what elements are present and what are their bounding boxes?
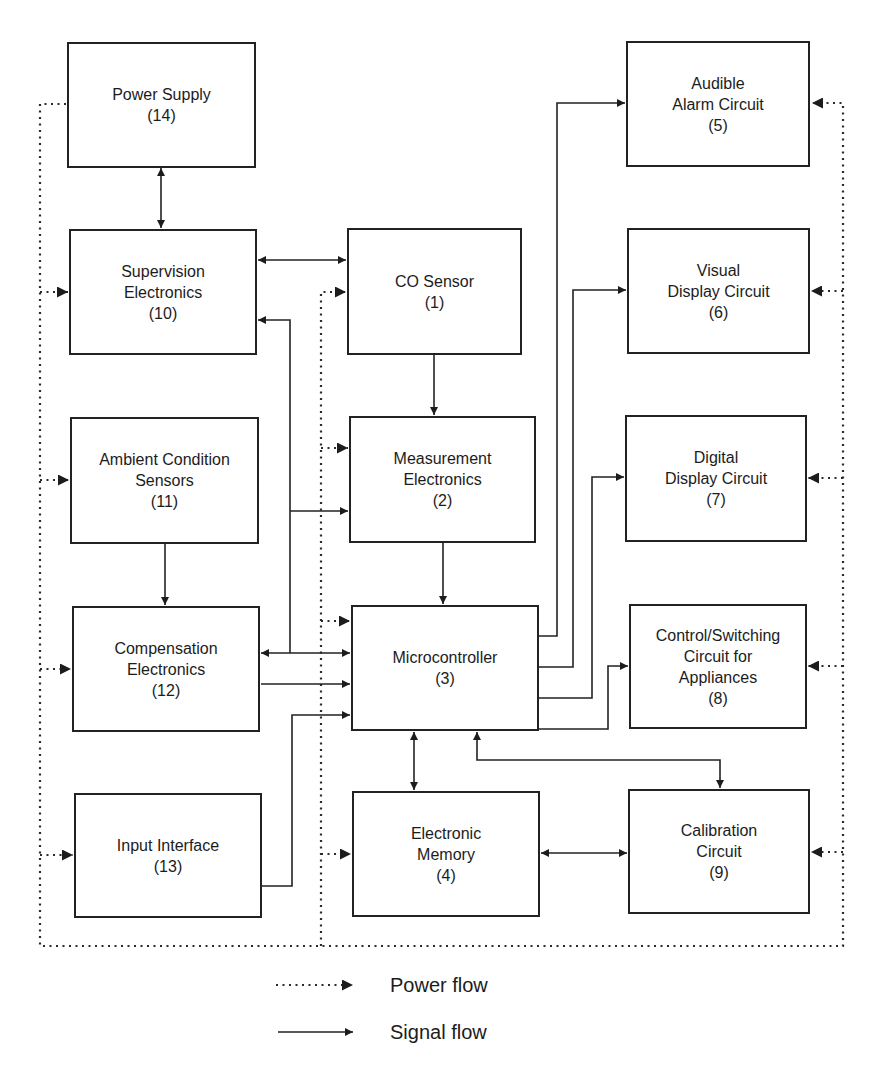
block-label: Calibration	[681, 820, 757, 841]
block-label: Input Interface	[117, 835, 219, 856]
block-supervision-electronics: Supervision Electronics (10)	[69, 229, 257, 355]
signal-micro-visual	[539, 290, 626, 667]
block-visual-display-circuit: Visual Display Circuit (6)	[627, 228, 810, 354]
block-label: Display Circuit	[665, 468, 767, 489]
block-number: (8)	[708, 688, 728, 709]
block-co-sensor: CO Sensor (1)	[347, 228, 522, 355]
block-label: Audible	[691, 73, 744, 94]
legend-signal-flow-label: Signal flow	[390, 1020, 487, 1044]
block-label: Supervision	[121, 261, 205, 282]
block-label: Measurement	[394, 448, 492, 469]
block-number: (7)	[706, 489, 726, 510]
power-bus-middle	[321, 292, 346, 946]
block-compensation-electronics: Compensation Electronics (12)	[72, 606, 260, 732]
block-number: (3)	[435, 668, 455, 689]
block-microcontroller: Microcontroller (3)	[351, 605, 539, 731]
block-electronic-memory: Electronic Memory (4)	[352, 791, 540, 917]
block-number: (12)	[152, 680, 180, 701]
block-audible-alarm-circuit: Audible Alarm Circuit (5)	[626, 41, 810, 167]
signal-bus-to-supervision	[258, 320, 290, 653]
block-label: Alarm Circuit	[672, 94, 764, 115]
legend-symbols	[276, 985, 353, 1032]
block-input-interface: Input Interface (13)	[74, 793, 262, 918]
block-label: Visual	[697, 260, 740, 281]
block-label: Display Circuit	[667, 281, 769, 302]
block-number: (4)	[436, 865, 456, 886]
block-label: Power Supply	[112, 84, 211, 105]
block-label: Memory	[417, 844, 475, 865]
block-label: Electronics	[124, 282, 202, 303]
block-label: Ambient Condition	[99, 449, 230, 470]
signal-micro-control	[539, 666, 628, 729]
block-label: Circuit	[696, 841, 741, 862]
block-label: Microcontroller	[393, 647, 498, 668]
block-number: (10)	[149, 303, 177, 324]
signal-input-micro	[262, 715, 350, 886]
block-label: Control/Switching	[656, 625, 781, 646]
signal-micro-calibration	[477, 732, 720, 788]
block-label: Sensors	[135, 470, 194, 491]
block-label: CO Sensor	[395, 271, 474, 292]
block-digital-display-circuit: Digital Display Circuit (7)	[625, 415, 807, 542]
block-label: Digital	[694, 447, 738, 468]
block-number: (5)	[708, 115, 728, 136]
block-label: Compensation	[114, 638, 217, 659]
signal-micro-digital	[539, 477, 624, 698]
block-diagram: Power Supply (14) Supervision Electronic…	[0, 0, 880, 1078]
block-number: (11)	[151, 491, 178, 512]
block-number: (14)	[147, 105, 175, 126]
block-number: (13)	[154, 856, 182, 877]
block-label: Electronics	[127, 659, 205, 680]
legend-power-flow-label: Power flow	[390, 973, 488, 997]
block-control-switching-circuit: Control/Switching Circuit for Appliances…	[629, 604, 807, 729]
block-number: (6)	[709, 302, 729, 323]
block-label: Electronic	[411, 823, 481, 844]
block-number: (9)	[709, 862, 729, 883]
block-label: Circuit for	[684, 646, 752, 667]
block-calibration-circuit: Calibration Circuit (9)	[628, 789, 810, 914]
block-ambient-condition-sensors: Ambient Condition Sensors (11)	[70, 417, 259, 544]
block-label: Electronics	[403, 469, 481, 490]
block-label: Appliances	[679, 667, 757, 688]
block-number: (2)	[433, 490, 453, 511]
block-number: (1)	[425, 292, 445, 313]
block-measurement-electronics: Measurement Electronics (2)	[349, 416, 536, 543]
signal-micro-audible	[539, 103, 625, 636]
block-power-supply: Power Supply (14)	[67, 42, 256, 168]
